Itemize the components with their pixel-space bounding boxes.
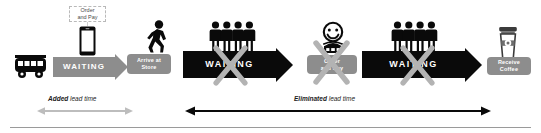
eliminated-lead-time-label: Eliminated lead time [294,95,355,102]
waiting-arrow-2-label: WAITING [205,60,253,69]
walking-person-icon [144,20,170,53]
order-pill-line1: Order [324,58,340,64]
waiting-arrow-1: WAITING [53,57,128,77]
callout-line1: Order [80,7,94,13]
diagram-canvas: Order and Pay WAITING Arrive at Store [0,0,541,133]
arrive-pill-line1: Arrive at [137,57,161,63]
eliminated-lead-time-rest: lead time [327,95,355,102]
order-and-pay-callout: Order and Pay [69,6,106,22]
arrow-head-icon [276,48,293,82]
waiting-arrow-3-label: WAITING [389,60,437,69]
order-pill-line2: and Pay [321,65,344,71]
queue-people-icon-2 [391,21,437,53]
added-lead-time-arrow [36,105,134,117]
receive-coffee-pill: Receive Coffee [487,57,531,75]
added-lead-time-rest: lead time [68,95,96,102]
waiting-arrow-2: WAITING [183,51,293,78]
queue-people-icon-1 [209,21,255,53]
bottom-divider [10,127,531,128]
eliminated-lead-time-emphasis: Eliminated [294,95,327,102]
smartphone-icon [79,26,96,56]
waiting-arrow-1-label: WAITING [63,63,105,71]
receive-pill-line2: Coffee [500,66,518,72]
receive-pill-line1: Receive [498,59,520,65]
eliminated-lead-time-arrow [184,105,492,117]
barista-icon [315,22,351,58]
waiting-arrow-3: WAITING [362,51,482,78]
order-and-pay-pill: Order and Pay [307,55,357,74]
bus-icon [14,55,48,79]
arrive-at-store-pill: Arrive at Store [127,54,171,74]
added-lead-time-emphasis: Added [48,95,68,102]
added-lead-time-label: Added lead time [48,95,96,102]
arrive-pill-line2: Store [141,64,156,70]
arrow-head-icon [465,48,482,82]
callout-line2: and Pay [77,14,97,20]
coffee-cup-icon [495,26,521,59]
